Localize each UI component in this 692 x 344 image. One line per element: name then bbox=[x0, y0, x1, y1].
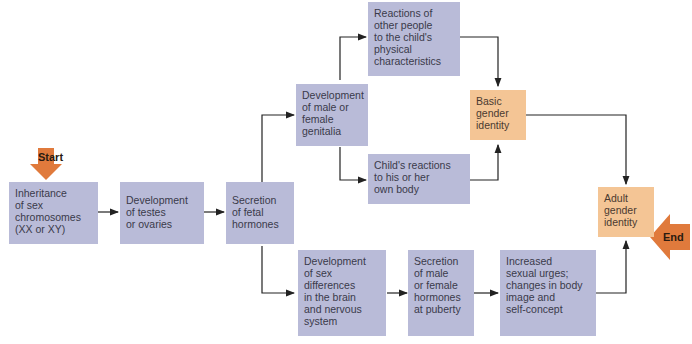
node-reactions-others: Reactions of other people to the child's… bbox=[368, 2, 460, 76]
node-testes-ovaries: Development of testes or ovaries bbox=[120, 182, 204, 244]
node-adult-identity: Adult gender identity bbox=[598, 187, 654, 237]
node-basic-identity: Basic gender identity bbox=[470, 90, 526, 140]
node-puberty: Secretion of male or female hormones at … bbox=[408, 250, 474, 336]
node-genitalia: Development of male or female genitalia bbox=[296, 84, 368, 146]
node-fetal-hormones: Secretion of fetal hormones bbox=[226, 182, 294, 244]
end-label: End bbox=[663, 231, 684, 243]
start-label: Start bbox=[38, 151, 63, 163]
node-inheritance: Inheritance of sex chromosomes (XX or XY… bbox=[9, 182, 98, 244]
node-urges: Increased sexual urges; changes in body … bbox=[500, 250, 596, 336]
node-reactions-child: Child's reactions to his or her own body bbox=[368, 154, 470, 204]
node-brain: Development of sex differences in the br… bbox=[298, 250, 386, 336]
